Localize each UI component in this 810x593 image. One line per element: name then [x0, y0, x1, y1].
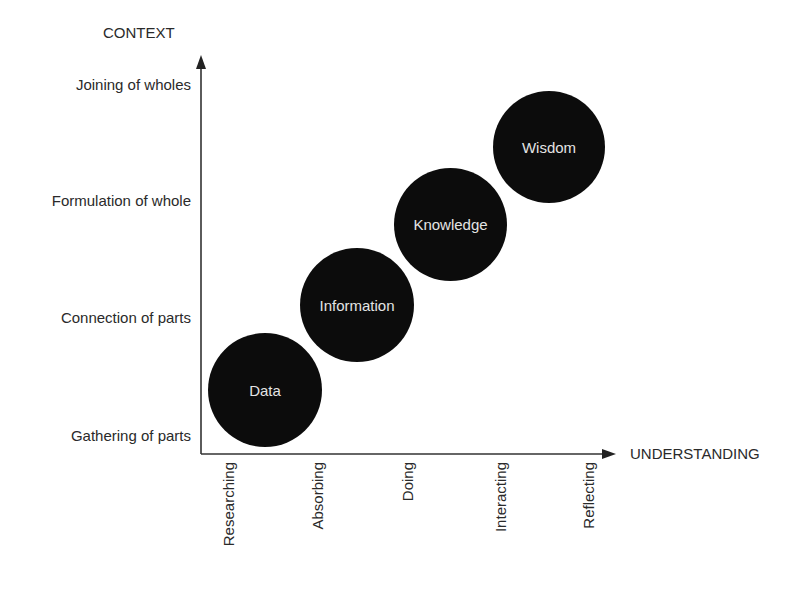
x-level-reflecting-text: Reflecting	[580, 462, 597, 529]
x-level-interacting-text: Interacting	[492, 462, 509, 532]
x-level-absorbing-text: Absorbing	[309, 462, 326, 530]
stage-knowledge-circle: Knowledge	[394, 168, 507, 281]
x-level-doing: Doing	[397, 462, 417, 572]
x-level-absorbing: Absorbing	[307, 462, 327, 572]
x-axis-title: UNDERSTANDING	[630, 445, 760, 462]
y-level-connection-of-parts: Connection of parts	[61, 309, 191, 326]
y-axis-arrow-icon	[196, 55, 206, 69]
stage-information-circle: Information	[300, 248, 414, 362]
x-level-reflecting: Reflecting	[578, 462, 598, 572]
y-axis-title: CONTEXT	[103, 24, 175, 41]
stage-data-label: Data	[249, 382, 281, 399]
x-level-doing-text: Doing	[399, 462, 416, 501]
stage-data-circle: Data	[208, 333, 322, 447]
x-level-researching-text: Researching	[220, 462, 237, 546]
stage-wisdom-circle: Wisdom	[493, 91, 605, 203]
stage-information-label: Information	[319, 297, 394, 314]
y-level-gathering-of-parts: Gathering of parts	[71, 427, 191, 444]
stage-knowledge-label: Knowledge	[413, 216, 487, 233]
y-level-formulation-of-whole: Formulation of whole	[52, 192, 191, 209]
stage-wisdom-label: Wisdom	[522, 139, 576, 156]
x-level-interacting: Interacting	[490, 462, 510, 572]
y-level-joining-of-wholes: Joining of wholes	[76, 76, 191, 93]
dikw-diagram: CONTEXT UNDERSTANDING Joining of wholes …	[0, 0, 810, 593]
x-level-researching: Researching	[218, 462, 238, 572]
x-axis-arrow-icon	[602, 449, 616, 459]
